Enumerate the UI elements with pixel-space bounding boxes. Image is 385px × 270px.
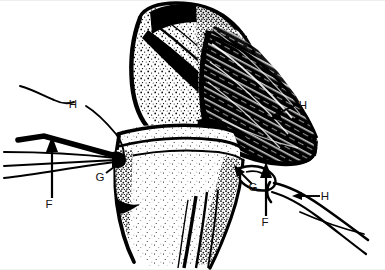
figure-container: H G F H G F H (0, 0, 385, 270)
left-f-force-arrow (46, 136, 58, 198)
tendon-strip-accessory-strand (300, 212, 364, 234)
anatomical-drawing: H G F H G F H (0, 0, 385, 270)
lower-tendon-strip (267, 182, 368, 254)
label-h-right-lower: H (321, 190, 330, 202)
right-lower-h-leader (292, 192, 320, 200)
label-f-right: F (261, 216, 268, 228)
left-h-leader-proximal (20, 86, 74, 103)
label-f-left: F (45, 198, 52, 210)
tendon-strip-lower-edge (272, 192, 366, 254)
label-h-left: H (69, 98, 78, 110)
label-h-right-upper: H (299, 99, 308, 111)
label-g-right: G (248, 181, 257, 193)
right-lower-h-arrowhead (292, 192, 302, 200)
label-g-left: G (95, 171, 104, 183)
lower-bone (108, 118, 248, 270)
